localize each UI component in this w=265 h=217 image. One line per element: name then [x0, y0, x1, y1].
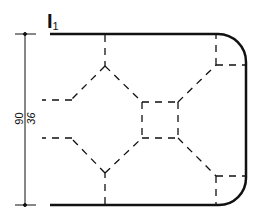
dimension-line: [15, 33, 36, 207]
diagram-canvas: [0, 0, 265, 217]
dashed-layout: [42, 35, 245, 204]
